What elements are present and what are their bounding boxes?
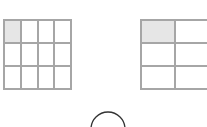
- grid-cell: [54, 66, 71, 89]
- grid-cell: [141, 43, 175, 66]
- grid-cell: [38, 20, 55, 43]
- grid-cell: [38, 43, 55, 66]
- grid-cell: [21, 66, 38, 89]
- grid-cell: [4, 66, 21, 89]
- grid-cell: [175, 20, 207, 43]
- semicircle-arc: [90, 109, 126, 127]
- grid-cell: [21, 43, 38, 66]
- grid-cell: [4, 20, 21, 43]
- grid-cell: [175, 66, 207, 89]
- right-grid-2col: [140, 19, 207, 90]
- grid-cell: [141, 20, 175, 43]
- grid-cell: [21, 20, 38, 43]
- grid-cell: [54, 43, 71, 66]
- grid-cell: [38, 66, 55, 89]
- grid-cell: [4, 43, 21, 66]
- grid-cell: [175, 43, 207, 66]
- grid-cell: [54, 20, 71, 43]
- grid-cell: [141, 66, 175, 89]
- left-grid-4x3: [3, 19, 72, 90]
